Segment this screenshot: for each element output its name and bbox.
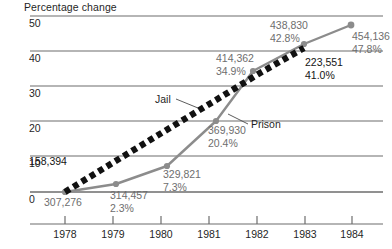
annotation-prison-1983: 438,830 42.8% (270, 19, 308, 44)
annotation-prison-1980: 329,821 7.3% (163, 168, 201, 193)
x-tick-label-1978: 1978 (45, 228, 85, 240)
annotation-pct: 41.0% (305, 69, 343, 82)
x-tick-label-1983: 1983 (285, 228, 325, 240)
annotation-prison-1982: 414,362 34.9% (216, 52, 254, 77)
series-label-prison: Prison (251, 118, 281, 130)
annotation-pct: 42.8% (270, 32, 308, 45)
y-tick-label-50: 50 (29, 17, 41, 29)
x-tick-label-1981: 1981 (189, 228, 229, 240)
percentage-change-line-chart: Percentage change (0, 0, 392, 249)
chart-canvas (0, 0, 392, 249)
annotation-pct: 20.4% (208, 137, 246, 150)
series-prison (62, 22, 355, 195)
x-tick-label-1984: 1984 (332, 228, 372, 240)
annotation-jail-1978: 158,394 (29, 155, 67, 168)
y-tick-label-0: 0 (29, 193, 35, 205)
prison-marker-1979 (113, 181, 119, 187)
annotation-prison-1981: 369,930 20.4% (208, 124, 246, 149)
y-tick-label-30: 30 (29, 87, 41, 99)
annotation-count: 307,276 (44, 196, 82, 209)
annotation-pct: 34.9% (216, 65, 254, 78)
annotation-count: 329,821 (163, 168, 201, 181)
annotation-pct: 7.3% (163, 181, 201, 194)
annotation-count: 314,457 (110, 189, 148, 202)
annotation-count: 438,830 (270, 19, 308, 32)
annotation-pct: 2.3% (110, 202, 148, 215)
jail-leader-line (176, 99, 198, 108)
y-tick-label-20: 20 (29, 122, 41, 134)
annotation-count: 223,551 (305, 56, 343, 69)
y-tick-label-40: 40 (29, 52, 41, 64)
annotation-jail-1983: 223,551 41.0% (305, 56, 343, 81)
x-tick-label-1980: 1980 (141, 228, 181, 240)
annotation-pct: 47.8% (352, 43, 390, 56)
annotation-count: 369,930 (208, 124, 246, 137)
annotation-count: 158,394 (29, 155, 67, 168)
prison-leader-line (228, 114, 248, 124)
x-axis (30, 216, 383, 224)
x-tick-label-1982: 1982 (237, 228, 277, 240)
annotation-count: 454,136 (352, 30, 390, 43)
x-tick-label-1979: 1979 (93, 228, 133, 240)
annotation-prison-1978: 307,276 (44, 196, 82, 209)
series-label-jail: Jail (155, 93, 171, 105)
annotation-prison-1979: 314,457 2.3% (110, 189, 148, 214)
prison-marker-1984 (348, 22, 355, 29)
annotation-prison-1984: 454,136 47.8% (352, 30, 390, 55)
annotation-count: 414,362 (216, 52, 254, 65)
